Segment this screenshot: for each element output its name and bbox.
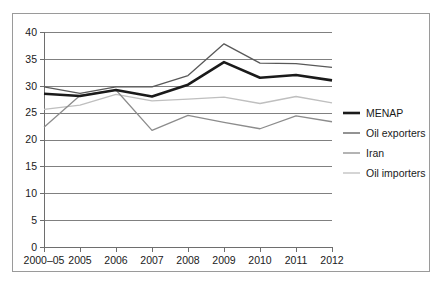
y-tick-label: 5	[31, 214, 37, 226]
series-line-iran	[44, 90, 332, 130]
series-line-oil-importers	[44, 94, 332, 109]
legend-label-menap: MENAP	[366, 107, 403, 119]
gridlines-group	[44, 33, 332, 248]
y-tick-label: 25	[25, 106, 37, 118]
legend-item-menap[interactable]: MENAP	[343, 107, 403, 119]
x-tick-label: 2007	[140, 254, 164, 266]
x-tick-label: 2012	[320, 254, 344, 266]
line-chart: 0510152025303540 2000–052005200620072008…	[13, 14, 431, 273]
x-tick-label: 2011	[285, 254, 308, 266]
x-tick-label: 2000–05	[24, 254, 65, 266]
legend-label-oil-exporters: Oil exporters	[366, 127, 426, 139]
y-tick-label: 35	[25, 53, 37, 65]
x-tick-label: 2005	[68, 254, 92, 266]
chart-legend: MENAPOil exportersIranOil importers	[343, 107, 426, 179]
y-tick-label: 10	[25, 187, 37, 199]
figure-frame: 0510152025303540 2000–052005200620072008…	[12, 13, 430, 272]
x-tick-label: 2010	[248, 254, 272, 266]
y-tick-label: 0	[31, 241, 37, 253]
y-axis-tick-labels: 0510152025303540	[25, 26, 37, 253]
x-tick-label: 2006	[104, 254, 128, 266]
x-axis-tick-labels: 2000–0520052006200720082009201020112012	[24, 254, 344, 266]
axes-group	[40, 32, 333, 252]
x-tick-label: 2008	[176, 254, 200, 266]
y-tick-label: 40	[25, 26, 37, 38]
chart-area: 0510152025303540 2000–052005200620072008…	[13, 14, 431, 273]
legend-item-oil-exporters[interactable]: Oil exporters	[343, 127, 426, 139]
y-tick-label: 20	[25, 133, 37, 145]
legend-item-iran[interactable]: Iran	[343, 147, 384, 159]
data-series-group	[44, 44, 332, 131]
legend-label-iran: Iran	[366, 147, 384, 159]
y-tick-label: 15	[25, 160, 37, 172]
y-tick-label: 30	[25, 80, 37, 92]
legend-item-oil-importers[interactable]: Oil importers	[343, 167, 426, 179]
x-tick-label: 2009	[212, 254, 236, 266]
legend-label-oil-importers: Oil importers	[366, 167, 426, 179]
